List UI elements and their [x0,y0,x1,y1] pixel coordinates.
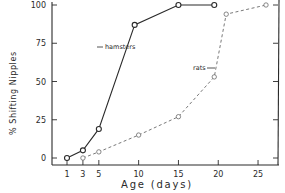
rats-marker [264,3,268,7]
series-group [65,3,269,161]
rats-marker [224,12,228,16]
hamsters-marker [96,126,101,131]
rats-series-label: rats [193,64,206,72]
rats-marker [212,75,216,79]
x-axis-title: Age (days) [121,179,193,190]
hamsters-series-label: hamsters [105,43,136,51]
rats-marker [176,114,180,118]
x-tick-label: 5 [96,170,101,179]
hamsters-marker [80,148,85,153]
x-tick-label: 1 [64,170,69,179]
y-axis-title: % Shifting Nipples [9,51,18,135]
rats-marker [136,133,140,137]
axes [52,0,279,165]
y-tick-label: 75 [36,39,46,48]
axis-ticks: 025507510013510152025 [31,1,278,179]
x-tick-label: 3 [80,170,85,179]
y-tick-label: 50 [36,78,46,87]
x-tick-label: 25 [253,170,263,179]
y-tick-label: 0 [41,154,46,163]
x-tick-label: 10 [134,170,144,179]
right-axis-line [278,0,279,165]
rats-line [83,5,266,158]
hamsters-marker [176,3,181,8]
rats-marker [81,156,85,160]
rats-marker [97,150,101,154]
y-tick-label: 25 [36,116,46,125]
hamsters-marker [132,22,137,27]
hamsters-marker [65,156,70,161]
y-tick-label: 100 [31,1,46,10]
x-tick-label: 15 [173,170,183,179]
x-tick-label: 20 [213,170,223,179]
hamsters-marker [212,3,217,8]
line-chart: 025507510013510152025 % Shifting Nipples… [0,0,285,193]
